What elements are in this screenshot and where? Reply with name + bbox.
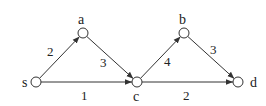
nodes: sacbd — [22, 12, 257, 104]
edge-weight-a-c: 3 — [100, 55, 107, 70]
node-a — [78, 28, 88, 38]
edge-weight-c-b: 4 — [164, 54, 171, 69]
node-s — [31, 77, 41, 87]
node-label-d: d — [250, 75, 257, 90]
edge-weight-c-d: 2 — [183, 88, 190, 103]
node-c — [132, 77, 142, 87]
edge-a-c — [87, 36, 134, 78]
node-label-s: s — [22, 75, 27, 90]
edge-weight-s-c: 1 — [81, 88, 88, 103]
edge-weight-s-a: 2 — [47, 44, 54, 59]
node-d — [233, 77, 243, 87]
edge-c-b — [140, 37, 180, 79]
edge-weight-b-d: 3 — [210, 42, 217, 57]
node-label-c: c — [133, 89, 139, 104]
node-label-b: b — [179, 12, 186, 27]
node-b — [179, 28, 189, 38]
edge-s-a — [39, 37, 79, 79]
node-label-a: a — [78, 12, 85, 27]
directed-graph: 213423 sacbd — [0, 0, 266, 106]
